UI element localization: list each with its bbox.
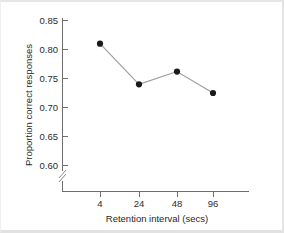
y-tick-label-2: 0.75 <box>40 73 59 84</box>
y-tick-labels: 0.85 0.80 0.75 0.70 0.65 0.60 <box>40 15 59 171</box>
data-point-48s <box>174 68 180 74</box>
x-tick-labels: 4 24 48 96 <box>97 198 218 209</box>
data-point-96s <box>210 90 216 96</box>
y-axis-title: Proportion correct responses <box>23 44 34 166</box>
line-chart-svg: 0.85 0.80 0.75 0.70 0.65 0.60 4 24 48 96… <box>0 0 284 233</box>
y-tick-label-0: 0.85 <box>40 15 59 26</box>
y-tick-label-5: 0.60 <box>40 160 59 171</box>
axis-break-icon <box>59 170 66 182</box>
series-line <box>100 44 213 93</box>
chart-screenshot: 0.85 0.80 0.75 0.70 0.65 0.60 4 24 48 96… <box>0 0 284 233</box>
data-series-proportion-correct <box>97 41 216 96</box>
y-tick-label-4: 0.65 <box>40 131 59 142</box>
y-tick-label-3: 0.70 <box>40 102 59 113</box>
x-tick-label-2: 48 <box>172 198 183 209</box>
x-tick-label-1: 24 <box>134 198 145 209</box>
data-point-4s <box>97 41 103 47</box>
data-point-24s <box>136 81 142 87</box>
x-axis-title: Retention interval (secs) <box>106 213 208 224</box>
y-tick-label-1: 0.80 <box>40 44 59 55</box>
x-tick-label-0: 4 <box>97 198 102 209</box>
chart-plot-area: 0.85 0.80 0.75 0.70 0.65 0.60 4 24 48 96… <box>0 0 284 233</box>
x-tick-label-3: 96 <box>208 198 219 209</box>
